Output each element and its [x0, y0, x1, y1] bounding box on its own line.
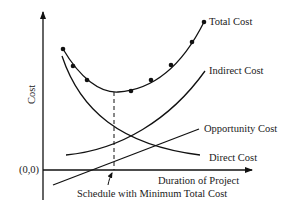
- origin-label: (0,0): [19, 165, 39, 176]
- annotation-arrow: [108, 173, 112, 185]
- label-indirect-cost: Indirect Cost: [209, 66, 264, 77]
- x-axis-label: Duration of Project: [158, 176, 239, 187]
- indirect-cost-curve: [66, 71, 205, 155]
- direct-cost-curve: [62, 56, 200, 155]
- total-cost-markers: [61, 20, 207, 94]
- label-opportunity-cost: Opportunity Cost: [204, 124, 277, 135]
- annotation-label: Schedule with Minimum Total Cost: [77, 189, 227, 200]
- label-direct-cost: Direct Cost: [209, 153, 257, 164]
- cost-duration-diagram: [0, 0, 291, 212]
- total-cost-curve: [63, 22, 204, 92]
- label-total-cost: Total Cost: [209, 17, 252, 28]
- y-axis-label: Cost: [27, 85, 38, 104]
